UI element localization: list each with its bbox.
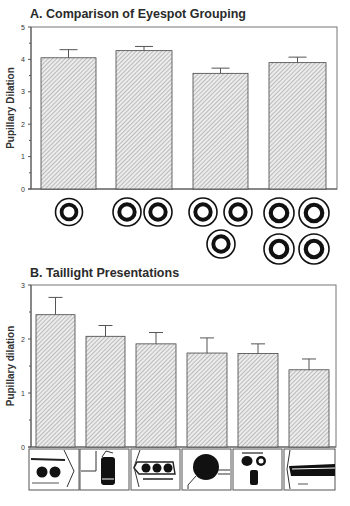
bar [136, 344, 176, 447]
concentric-ring-eyespot-icon [264, 234, 294, 264]
bar [41, 58, 96, 189]
bar [36, 315, 75, 447]
bar [269, 63, 326, 189]
y-tick-label: 3 [21, 88, 25, 95]
concentric-ring-eyespot-icon [113, 198, 141, 226]
concentric-ring-eyespot-icon [299, 234, 329, 264]
eyespot-group-3 [189, 198, 252, 258]
panel-b-y-axis-label: Pupillary dilation [5, 326, 16, 407]
panel-b-taillight-images [29, 449, 335, 490]
bar [187, 353, 227, 447]
y-tick-label: 2 [21, 121, 25, 128]
taillight-three-round-icon [131, 449, 180, 490]
eyespot-group-2 [113, 198, 172, 226]
bar [238, 354, 278, 447]
panel-a-y-axis-label: Pupillary Dilation [5, 67, 16, 149]
panel-a-title: A. Comparison of Eyespot Grouping [30, 7, 246, 21]
bar [289, 370, 329, 447]
panel-a-chart: A. Comparison of Eyespot Grouping Pupill… [5, 7, 337, 264]
concentric-ring-eyespot-icon [189, 198, 217, 226]
taillight-face-icon [233, 449, 282, 490]
y-tick-label: 3 [21, 282, 25, 289]
concentric-ring-eyespot-icon [144, 198, 172, 226]
panel-b-title: B. Taillight Presentations [30, 266, 179, 280]
panel-a-eyespot-icons [56, 198, 330, 264]
bar [116, 51, 172, 189]
panel-b-chart: B. Taillight Presentations Pupillary dil… [5, 266, 336, 490]
panel-a-bars [41, 46, 326, 189]
y-tick-label: 0 [21, 186, 25, 193]
concentric-ring-eyespot-icon [299, 198, 329, 228]
taillight-large-round-icon [182, 449, 231, 490]
eyespot-group-4 [264, 198, 329, 264]
taillight-horizontal-strip-icon [284, 449, 335, 490]
y-tick-label: 1 [21, 390, 25, 397]
concentric-ring-eyespot-icon [224, 198, 252, 226]
y-tick-label: 1 [21, 153, 25, 160]
bar [86, 336, 125, 447]
panel-b-bars [36, 297, 329, 447]
concentric-ring-eyespot-icon [56, 199, 83, 226]
y-tick-label: 5 [21, 24, 25, 31]
y-tick-label: 0 [21, 444, 25, 451]
eyespot-group-1 [56, 199, 83, 226]
concentric-ring-eyespot-icon [264, 198, 294, 228]
y-tick-label: 2 [21, 336, 25, 343]
taillight-vertical-lamp-icon [80, 449, 129, 490]
y-tick-label: 4 [21, 56, 25, 63]
concentric-ring-eyespot-icon [207, 230, 235, 258]
bar [193, 73, 248, 189]
figure: A. Comparison of Eyespot Grouping Pupill… [0, 0, 350, 506]
taillight-two-round-icon [29, 449, 79, 490]
